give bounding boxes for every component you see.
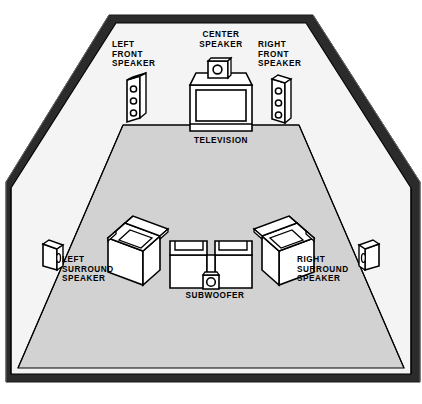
label-right-surround-speaker: RIGHT SURROUND SPEAKER	[297, 255, 349, 284]
center-speaker-driver-icon	[213, 65, 222, 74]
left-front-speaker-side	[140, 73, 146, 118]
left-front-speaker-driver-icon-2	[130, 98, 136, 104]
label-left-surround-speaker: LEFT SURROUND SPEAKER	[62, 255, 114, 284]
label-subwoofer: SUBWOOFER	[172, 291, 258, 301]
right-front-speaker-driver-icon-3	[275, 112, 281, 118]
subwoofer-top-bevel	[203, 272, 219, 275]
right-front-speaker-driver-icon-2	[275, 100, 281, 106]
subwoofer-driver-icon	[207, 278, 216, 287]
right-front-speaker-driver-icon-1	[275, 88, 281, 94]
left-front-speaker-driver-icon-3	[130, 110, 136, 116]
right-front-speaker-side	[285, 79, 291, 123]
right-front-speaker-group	[272, 75, 291, 123]
center-speaker-side	[228, 58, 231, 78]
television-screen	[196, 90, 246, 121]
label-left-front-speaker: LEFT FRONT SPEAKER	[112, 40, 155, 69]
left-seat-body	[170, 255, 207, 288]
label-center-speaker: CENTER SPEAKER	[190, 30, 252, 49]
room-illustration	[0, 0, 422, 404]
label-television: TELEVISION	[186, 136, 256, 146]
label-right-front-speaker: RIGHT FRONT SPEAKER	[258, 40, 301, 69]
right-surround-speaker-group	[359, 240, 379, 270]
home-theater-diagram: LEFT FRONT SPEAKER CENTER SPEAKER RIGHT …	[0, 0, 422, 404]
right-seat-body	[215, 255, 252, 288]
left-front-speaker-driver-icon-1	[130, 86, 136, 92]
right-surround-speaker-driver-icon	[362, 254, 366, 263]
left-surround-speaker-driver-icon	[57, 254, 61, 263]
left-front-speaker-group	[127, 73, 146, 122]
left-surround-speaker-group	[43, 240, 63, 270]
